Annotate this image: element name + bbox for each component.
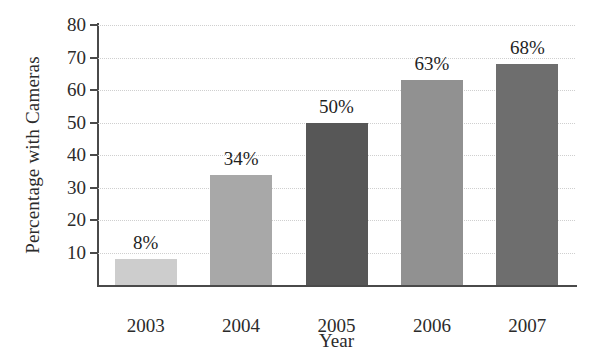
y-axis-tick <box>90 89 98 91</box>
bar-2005 <box>306 123 368 286</box>
y-axis-tick <box>90 57 98 59</box>
y-axis-tick-label: 50 <box>67 112 86 134</box>
bar-2003 <box>115 259 177 285</box>
y-axis-tick-label: 70 <box>67 47 86 69</box>
bar-2004 <box>210 175 272 286</box>
y-axis-tick-label: 80 <box>67 14 86 36</box>
x-axis-title: Year <box>98 330 575 352</box>
bar-group: 8%2003 <box>115 25 177 285</box>
y-axis-tick-label: 40 <box>67 144 86 166</box>
bar-group: 50%2005 <box>306 25 368 285</box>
bar-value-label: 50% <box>319 96 354 118</box>
y-axis-tick <box>90 252 98 254</box>
y-axis-tick-label: 60 <box>67 79 86 101</box>
y-axis-tick <box>90 122 98 124</box>
bar-chart: Percentage with Cameras 1020304050607080… <box>0 0 592 364</box>
y-axis-tick <box>90 187 98 189</box>
bar-group: 63%2006 <box>401 25 463 285</box>
x-axis-line <box>97 285 577 287</box>
y-axis-tick-label: 20 <box>67 209 86 231</box>
bar-group: 34%2004 <box>210 25 272 285</box>
bar-2006 <box>401 80 463 285</box>
bar-value-label: 63% <box>414 53 449 75</box>
bar-value-label: 34% <box>224 148 259 170</box>
bar-value-label: 68% <box>510 37 545 59</box>
y-axis-tick <box>90 154 98 156</box>
bar-2007 <box>496 64 558 285</box>
y-axis-tick-label: 10 <box>67 242 86 264</box>
y-axis-tick-label: 30 <box>67 177 86 199</box>
bars-layer: 8%200334%200450%200563%200668%2007 <box>98 25 575 285</box>
y-axis-tick <box>90 24 98 26</box>
bar-group: 68%2007 <box>496 25 558 285</box>
y-axis-tick <box>90 219 98 221</box>
bar-value-label: 8% <box>133 232 158 254</box>
y-axis-title: Percentage with Cameras <box>14 10 52 300</box>
